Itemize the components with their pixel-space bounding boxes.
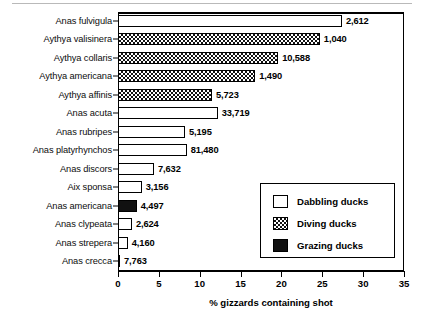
x-axis-tick-label: 20 (276, 278, 287, 289)
bar-value-label: 5,195 (189, 127, 212, 137)
bar-dabbling (118, 181, 142, 193)
bar-grazing (118, 200, 137, 212)
legend-label-dabbling: Dabbling ducks (297, 196, 368, 207)
bar-row: Anas discors7,632 (0, 160, 424, 177)
x-axis-tick-label: 15 (235, 278, 246, 289)
bar-diving (118, 89, 212, 101)
bar-row: Aythya collaris10,588 (0, 49, 424, 66)
bar-value-label: 7,763 (124, 256, 147, 266)
bar-value-label: 10,588 (282, 53, 310, 63)
legend-item-diving: Diving ducks (273, 213, 394, 233)
bar-value-label: 1,490 (259, 71, 282, 81)
bar-dabbling (118, 218, 132, 230)
x-axis-line (118, 271, 404, 272)
bar-diving (118, 52, 278, 64)
chart-figure: Anas fulvigula2,612Aythya valisinera1,04… (0, 0, 424, 318)
bar-row: Anas rubripes5,195 (0, 123, 424, 140)
x-axis-tick-label: 5 (156, 278, 161, 289)
chart-legend: Dabbling ducks Diving ducks Grazing duck… (260, 183, 395, 258)
x-axis-tick-label: 0 (115, 278, 120, 289)
category-label: Anas strepera (55, 238, 112, 248)
bar-dabbling (118, 107, 218, 119)
bar-dabbling (118, 163, 154, 175)
legend-label-grazing: Grazing ducks (297, 240, 363, 251)
bar-dabbling (118, 15, 342, 27)
category-label: Aythya affinis (58, 90, 112, 100)
category-label: Anas rubripes (56, 127, 112, 137)
bar-value-label: 33,719 (222, 108, 250, 118)
bar-row: Anas platyrhynchos81,480 (0, 142, 424, 159)
bar-row: Aythya valisinera1,040 (0, 31, 424, 48)
category-label: Anas crecca (62, 256, 112, 266)
legend-item-grazing: Grazing ducks (273, 235, 394, 255)
bar-value-label: 4,160 (132, 238, 155, 248)
x-axis-tick (281, 271, 282, 277)
legend-label-diving: Diving ducks (297, 218, 357, 229)
bar-value-label: 3,156 (146, 182, 169, 192)
x-axis-tick (118, 271, 119, 277)
category-label: Anas acuta (66, 108, 112, 118)
bar-row: Anas acuta33,719 (0, 105, 424, 122)
x-axis-tick-label: 10 (194, 278, 205, 289)
bar-value-label: 7,632 (158, 164, 181, 174)
bar-diving (118, 33, 320, 45)
x-axis-tick (159, 271, 160, 277)
category-label: Anas platyrhynchos (33, 145, 112, 155)
legend-item-dabbling: Dabbling ducks (273, 191, 394, 211)
x-axis-tick-label: 35 (399, 278, 410, 289)
x-axis-tick (200, 271, 201, 277)
category-label: Anas clypeata (55, 219, 112, 229)
bar-value-label: 2,624 (136, 219, 159, 229)
x-axis-tick (363, 271, 364, 277)
bar-dabbling (118, 144, 187, 156)
bar-value-label: 2,612 (346, 16, 369, 26)
bar-row: Aythya americana1,490 (0, 68, 424, 85)
bar-value-label: 4,497 (141, 201, 164, 211)
page-top-rule (12, 3, 412, 4)
category-label: Anas fulvigula (56, 16, 112, 26)
bar-dabbling (118, 255, 120, 267)
bar-row: Anas fulvigula2,612 (0, 12, 424, 29)
x-axis-tick (404, 271, 405, 277)
x-axis-tick (241, 271, 242, 277)
category-label: Aythya americana (39, 71, 112, 81)
x-axis-title: % gizzards containing shot (0, 297, 424, 308)
x-axis-tick-label: 30 (358, 278, 369, 289)
category-label: Anas discors (60, 164, 112, 174)
bar-row: Aythya affinis5,723 (0, 86, 424, 103)
category-label: Aix sponsa (68, 182, 112, 192)
bar-dabbling (118, 237, 128, 249)
category-label: Aythya valisinera (44, 34, 112, 44)
category-label: Anas americana (46, 201, 112, 211)
bar-dabbling (118, 126, 185, 138)
legend-swatch-diving-icon (273, 217, 288, 230)
bar-diving (118, 70, 255, 82)
legend-swatch-dabbling-icon (273, 195, 288, 208)
bar-value-label: 5,723 (216, 90, 239, 100)
x-axis-tick (322, 271, 323, 277)
category-label: Aythya collaris (54, 53, 112, 63)
bar-value-label: 1,040 (324, 34, 347, 44)
legend-swatch-grazing-icon (273, 239, 288, 252)
bar-value-label: 81,480 (191, 145, 219, 155)
x-axis-tick-label: 25 (317, 278, 328, 289)
